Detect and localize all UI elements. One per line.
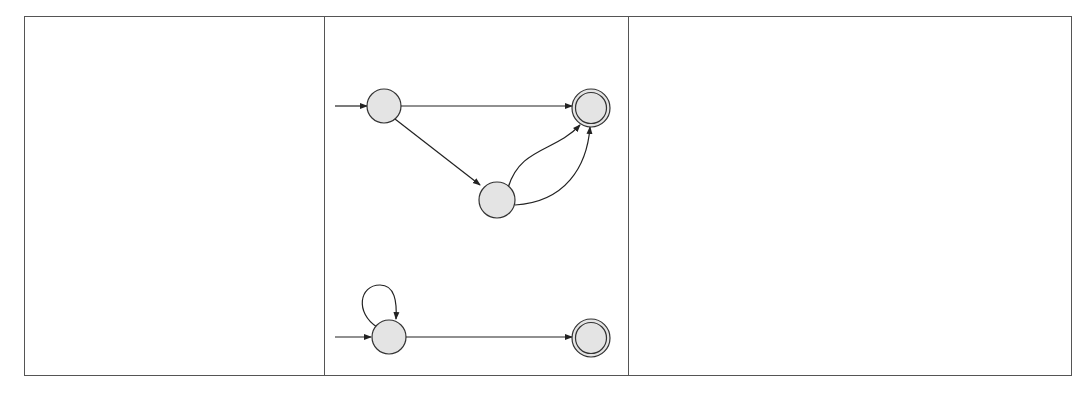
figure-frame: [24, 16, 1072, 376]
edge-pn7-acc-lower: [515, 127, 590, 205]
node-acc: [572, 89, 610, 127]
panel-a-rules: [25, 17, 324, 375]
node-p-n7: [479, 182, 515, 218]
edge-p-pn7: [395, 119, 480, 185]
node-p-bottom: [372, 320, 406, 354]
automaton-top: [335, 89, 610, 218]
node-p: [367, 89, 401, 123]
node-acc-bottom: [572, 319, 610, 357]
automata-diagram: [325, 17, 628, 375]
panel-b-automata: [325, 17, 628, 375]
automaton-bottom: [335, 285, 610, 357]
edge-pn7-acc-upper: [508, 125, 580, 188]
panel-c-weights: [629, 17, 1071, 375]
